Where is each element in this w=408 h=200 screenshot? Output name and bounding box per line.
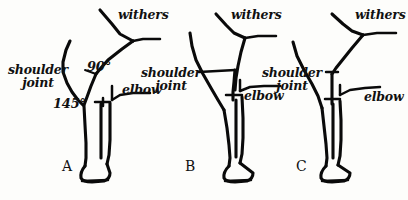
figure-letter-a: A bbox=[62, 160, 72, 173]
back-line-c bbox=[363, 33, 396, 35]
rear-leg-contour-c bbox=[338, 101, 341, 165]
rear-leg-contour-b bbox=[240, 97, 243, 163]
label-shoulder-joint-c: shoulder joint bbox=[262, 66, 322, 92]
figure-letter-c: C bbox=[296, 160, 307, 173]
rear-leg-contour-a bbox=[107, 103, 110, 164]
anatomy-diagram: withers shoulder joint elbow 90° 145° A … bbox=[0, 0, 408, 200]
back-line-a bbox=[133, 39, 160, 41]
label-withers-c: withers bbox=[355, 9, 406, 22]
label-angle-145: 145° bbox=[53, 98, 86, 111]
label-shoulder-joint-b: shoulder joint bbox=[141, 66, 201, 92]
label-shoulder-joint-b-line2: joint bbox=[141, 79, 201, 92]
shoulder-tick-b bbox=[199, 70, 235, 72]
hoof-base-b bbox=[225, 180, 251, 181]
label-angle-90: 90° bbox=[87, 61, 111, 74]
label-withers-b: withers bbox=[231, 9, 282, 22]
label-elbow-c: elbow bbox=[364, 91, 404, 104]
label-shoulder-joint-c-line2: joint bbox=[262, 79, 322, 92]
hoof-base-a bbox=[82, 180, 108, 181]
figure-letter-b: B bbox=[185, 160, 195, 173]
cannon-front-b bbox=[224, 110, 230, 166]
cannon-front-a bbox=[84, 106, 86, 166]
hoof-base-c bbox=[322, 180, 348, 181]
scapula-line-c bbox=[332, 35, 363, 74]
back-line-b bbox=[245, 36, 276, 38]
label-withers-a: withers bbox=[118, 9, 169, 22]
label-shoulder-joint-a-line2: joint bbox=[8, 76, 68, 89]
cannon-front-c bbox=[322, 108, 327, 166]
label-shoulder-joint-a: shoulder joint bbox=[8, 63, 68, 89]
